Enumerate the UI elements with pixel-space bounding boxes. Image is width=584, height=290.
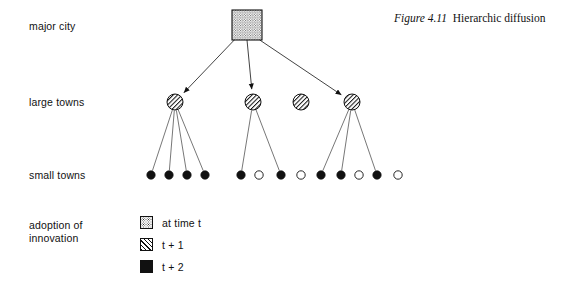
link-line	[169, 110, 174, 170]
legend-label-at-time-t: at time t	[162, 217, 201, 229]
link-line	[256, 110, 279, 171]
legend-label-t-plus-2: t + 2	[162, 261, 184, 273]
node-large-town	[245, 94, 261, 110]
legend-swatch-hatch-icon	[140, 238, 153, 251]
figure-caption-number: Figure 4.11	[394, 12, 447, 24]
node-small-town-adopted	[147, 171, 155, 179]
diffusion-arrow	[247, 40, 252, 89]
diagram-canvas	[0, 0, 584, 290]
legend-item-t-plus-1: t + 1	[140, 235, 201, 254]
node-small-town-adopted	[183, 171, 191, 179]
legend-item-t-plus-2: t + 2	[140, 257, 201, 276]
figure-caption-text: Hierarchic diffusion	[453, 12, 546, 24]
legend-swatch-stipple-icon	[140, 216, 153, 229]
nodes-group	[147, 10, 402, 179]
legend-swatch-solid-icon	[140, 260, 153, 273]
node-small-town-not-adopted	[297, 171, 305, 179]
node-small-town-not-adopted	[394, 171, 402, 179]
diffusion-arrow	[260, 40, 341, 95]
figure-hierarchic-diffusion: major city large towns small towns adopt…	[0, 0, 584, 290]
node-small-town-adopted	[373, 171, 381, 179]
link-line	[342, 110, 351, 170]
node-small-town-adopted	[277, 171, 285, 179]
node-large-town	[167, 94, 183, 110]
node-large-town	[293, 94, 309, 110]
link-line	[152, 110, 172, 170]
node-large-town	[344, 94, 360, 110]
node-small-town-adopted	[317, 171, 325, 179]
node-small-town-adopted	[201, 171, 209, 179]
legend: at time t t + 1 t + 2	[140, 213, 201, 279]
node-major-city	[232, 10, 262, 40]
link-line	[242, 110, 252, 170]
legend-label-t-plus-1: t + 1	[162, 239, 184, 251]
node-small-town-not-adopted	[355, 171, 363, 179]
node-small-town-adopted	[237, 171, 245, 179]
link-line	[178, 110, 203, 171]
node-small-town-adopted	[165, 171, 173, 179]
node-small-town-adopted	[337, 171, 345, 179]
arrow-lines-group	[184, 40, 341, 95]
figure-caption: Figure 4.11 Hierarchic diffusion	[394, 12, 566, 25]
link-line	[323, 110, 349, 171]
link-line	[176, 110, 186, 170]
link-line	[355, 110, 376, 171]
node-small-town-not-adopted	[255, 171, 263, 179]
link-lines-group	[152, 110, 375, 171]
legend-item-at-time-t: at time t	[140, 213, 201, 232]
diffusion-arrow	[184, 40, 234, 93]
